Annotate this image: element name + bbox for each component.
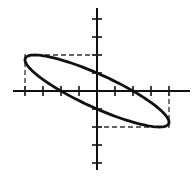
lissajous-diagram (0, 0, 192, 181)
